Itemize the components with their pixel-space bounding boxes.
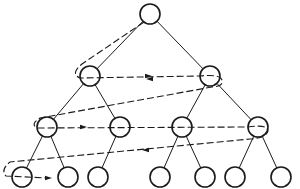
tree-node [140,4,160,24]
tree-edge [186,136,201,168]
tree-edge [239,136,254,168]
arrow-left-icon [142,148,149,152]
arrow-right-icon [80,125,87,129]
tree-edge [262,136,277,168]
tree-edge [26,136,42,168]
tree-nodes [12,4,291,187]
tree-edge [51,136,64,168]
tree-node [225,167,245,187]
tree-node [58,167,78,187]
tree-node [110,117,130,137]
tree-node [271,167,291,187]
tree-edge [97,21,143,69]
traversal-path [4,22,268,178]
tree-edge [217,83,251,119]
tree-node [195,167,215,187]
tree-diagram [0,0,300,189]
tree-edge [187,85,205,118]
tree-node [150,167,170,187]
tree-edge [157,21,203,69]
tree-node [88,167,108,187]
tree-edge [95,85,115,119]
tree-edges [26,21,276,168]
arrow-right-icon [45,176,52,180]
tree-node [37,117,57,137]
tree-edge [53,84,83,120]
tree-node [80,66,100,86]
dashed-traversal-line [4,22,268,178]
tree-edge [164,136,178,168]
traversal-arrows [45,74,153,180]
